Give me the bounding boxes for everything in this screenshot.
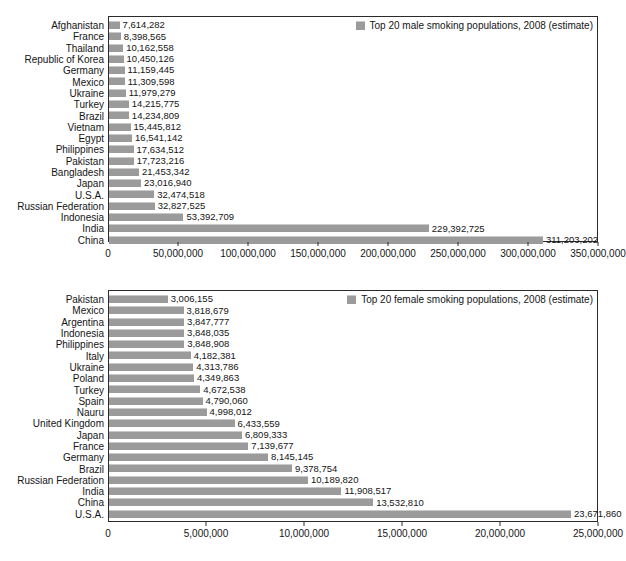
bar-value-label: 4,790,060 bbox=[206, 396, 248, 406]
male-category-label: Turkey bbox=[3, 99, 104, 110]
bar-row: Nauru4,998,012 bbox=[109, 407, 597, 418]
bar-wrapper: 4,182,381 bbox=[109, 351, 597, 359]
bar-row: Indonesia53,392,709 bbox=[109, 212, 597, 223]
bar bbox=[109, 408, 207, 416]
bar bbox=[109, 476, 308, 484]
bar bbox=[109, 55, 124, 63]
axis-tick bbox=[318, 242, 319, 246]
bar-value-label: 3,818,679 bbox=[187, 306, 229, 316]
female-category-label: Mexico bbox=[3, 305, 104, 316]
bar-row: India11,908,517 bbox=[109, 486, 597, 497]
legend-swatch-icon bbox=[356, 21, 365, 30]
male-category-label: Philippines bbox=[3, 144, 104, 155]
axis-tick bbox=[528, 242, 529, 246]
axis-tick-label: 50,000,000 bbox=[153, 248, 203, 259]
male-category-label: Bangladesh bbox=[3, 167, 104, 178]
axis-tick bbox=[598, 522, 599, 526]
male-category-label: Vietnam bbox=[3, 122, 104, 133]
bar bbox=[109, 318, 184, 326]
bar-wrapper: 3,848,908 bbox=[109, 340, 597, 348]
bar bbox=[109, 111, 129, 119]
male-legend-label: Top 20 male smoking populations, 2008 (e… bbox=[370, 20, 593, 31]
bar-row: Philippines17,634,512 bbox=[109, 144, 597, 155]
male-smoking-chart: Afghanistan7,614,282France8,398,565Thail… bbox=[0, 8, 610, 276]
female-category-label: Japan bbox=[3, 430, 104, 441]
bar-wrapper: 17,723,216 bbox=[109, 157, 597, 165]
female-category-label: Argentina bbox=[3, 317, 104, 328]
bar-row: Indonesia3,848,035 bbox=[109, 328, 597, 339]
axis-tick bbox=[248, 242, 249, 246]
male-category-label: Indonesia bbox=[3, 212, 104, 223]
bar-value-label: 10,162,558 bbox=[126, 43, 174, 53]
bar-wrapper: 23,671,860 bbox=[109, 510, 597, 518]
axis-tick-label: 200,000,000 bbox=[360, 248, 416, 259]
axis-tick-label: 0 bbox=[105, 528, 111, 539]
bar-row: Egypt16,541,142 bbox=[109, 133, 597, 144]
bar-value-label: 15,445,812 bbox=[134, 122, 182, 132]
male-x-axis: 050,000,000100,000,000150,000,000200,000… bbox=[108, 242, 598, 268]
axis-tick bbox=[206, 522, 207, 526]
bar-value-label: 16,541,142 bbox=[135, 133, 183, 143]
bar-wrapper: 4,349,863 bbox=[109, 374, 597, 382]
female-category-label: Poland bbox=[3, 373, 104, 384]
bar bbox=[109, 89, 126, 97]
bar-row: Ukraine4,313,786 bbox=[109, 362, 597, 373]
bar-wrapper: 10,189,820 bbox=[109, 476, 597, 484]
bar-wrapper: 3,848,035 bbox=[109, 329, 597, 337]
axis-tick-label: 10,000,000 bbox=[279, 528, 329, 539]
bar-wrapper: 11,908,517 bbox=[109, 487, 597, 495]
bar-value-label: 3,006,155 bbox=[171, 294, 213, 304]
bar bbox=[109, 510, 571, 518]
female-plot-area: Pakistan3,006,155Mexico3,818,679Argentin… bbox=[108, 290, 598, 522]
bar-value-label: 10,189,820 bbox=[311, 475, 359, 485]
bar-row: United Kingdom6,433,559 bbox=[109, 418, 597, 429]
bar-value-label: 17,634,512 bbox=[137, 145, 185, 155]
bar bbox=[109, 306, 184, 314]
bar-value-label: 11,979,279 bbox=[129, 88, 176, 98]
male-plot-area: Afghanistan7,614,282France8,398,565Thail… bbox=[108, 16, 598, 242]
female-category-label: China bbox=[3, 497, 104, 508]
bar-row: China13,532,810 bbox=[109, 497, 597, 508]
female-category-label: Russian Federation bbox=[3, 475, 104, 486]
bar-row: Turkey14,215,775 bbox=[109, 99, 597, 110]
bar-wrapper: 53,392,709 bbox=[109, 213, 597, 221]
female-category-label: Pakistan bbox=[3, 294, 104, 305]
bar-value-label: 3,848,908 bbox=[187, 339, 229, 349]
axis-tick-label: 100,000,000 bbox=[220, 248, 276, 259]
bar-row: India229,392,725 bbox=[109, 223, 597, 234]
bar-wrapper: 10,450,126 bbox=[109, 55, 597, 63]
bar bbox=[109, 66, 125, 74]
female-category-label: Turkey bbox=[3, 385, 104, 396]
bar-row: Japan6,809,333 bbox=[109, 430, 597, 441]
male-category-label: China bbox=[3, 235, 104, 246]
female-category-label: Ukraine bbox=[3, 362, 104, 373]
axis-tick-label: 15,000,000 bbox=[377, 528, 427, 539]
bar-value-label: 7,139,677 bbox=[251, 441, 293, 451]
bar-row: Spain4,790,060 bbox=[109, 396, 597, 407]
bar-value-label: 11,309,598 bbox=[128, 77, 175, 87]
bar-value-label: 4,182,381 bbox=[194, 351, 236, 361]
bar-value-label: 3,848,035 bbox=[187, 328, 229, 338]
bar bbox=[109, 134, 132, 142]
bar-value-label: 9,378,754 bbox=[295, 464, 337, 474]
bar-wrapper: 21,453,342 bbox=[109, 168, 597, 176]
female-category-label: Brazil bbox=[3, 464, 104, 475]
bar-wrapper: 6,433,559 bbox=[109, 419, 597, 427]
bar bbox=[109, 145, 134, 153]
bar bbox=[109, 77, 125, 85]
male-bar-rows: Afghanistan7,614,282France8,398,565Thail… bbox=[109, 17, 597, 246]
bar-value-label: 4,349,863 bbox=[197, 373, 239, 383]
bar-wrapper: 13,532,810 bbox=[109, 498, 597, 506]
bar-row: Germany11,159,445 bbox=[109, 65, 597, 76]
bar-wrapper: 4,313,786 bbox=[109, 363, 597, 371]
axis-tick-label: 25,000,000 bbox=[573, 528, 623, 539]
bar-row: Turkey4,672,538 bbox=[109, 384, 597, 395]
female-category-label: Germany bbox=[3, 452, 104, 463]
bar-value-label: 53,392,709 bbox=[186, 212, 234, 222]
bar-wrapper: 4,790,060 bbox=[109, 397, 597, 405]
bar bbox=[109, 224, 429, 232]
bar-wrapper: 11,159,445 bbox=[109, 66, 597, 74]
female-chart-legend: Top 20 female smoking populations, 2008 … bbox=[347, 294, 593, 305]
bar bbox=[109, 168, 139, 176]
